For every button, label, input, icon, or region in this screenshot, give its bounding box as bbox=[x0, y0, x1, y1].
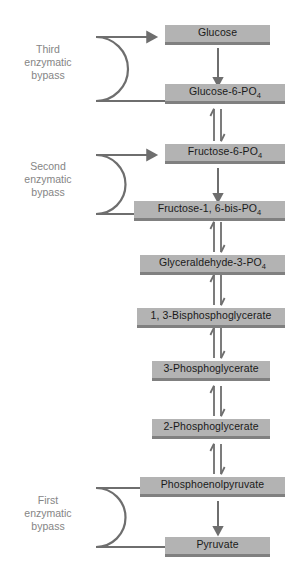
node-3-phosphoglycerate-label: 3-Phosphoglycerate bbox=[163, 363, 258, 374]
bypass-curve-third bbox=[96, 37, 168, 101]
bypass-label-third-line1: Third bbox=[8, 43, 88, 56]
bypass-label-first-line3: bypass bbox=[8, 520, 88, 533]
node-3-phosphoglycerate[interactable]: 3-Phosphoglycerate bbox=[152, 361, 270, 381]
node-1-3-bisphosphoglycerate-label: 1, 3-Bisphosphoglycerate bbox=[151, 310, 272, 321]
bypass-label-second: Second enzymatic bypass bbox=[8, 160, 88, 199]
node-glucose-6-po4-label: Glucose-6-PO4 bbox=[189, 86, 261, 97]
node-phosphoenolpyruvate-label: Phosphoenolpyruvate bbox=[161, 479, 264, 490]
node-pyruvate-label: Pyruvate bbox=[196, 539, 238, 550]
reversible-arrow-f16bp-to-g3p bbox=[210, 222, 224, 253]
bypass-label-second-line3: bypass bbox=[8, 186, 88, 199]
pathway-diagram: Glucose Glucose-6-PO4 Fructose-6-PO4 Fru… bbox=[0, 0, 294, 579]
node-glyceraldehyde-3-po4-label: Glyceraldehyde-3-PO4 bbox=[159, 257, 266, 268]
bypass-label-second-line2: enzymatic bbox=[8, 173, 88, 186]
bypass-label-third-line2: enzymatic bbox=[8, 56, 88, 69]
node-pyruvate[interactable]: Pyruvate bbox=[165, 537, 270, 557]
bypass-label-first: First enzymatic bypass bbox=[8, 494, 88, 533]
node-fructose-6-po4[interactable]: Fructose-6-PO4 bbox=[165, 144, 285, 164]
bypass-label-third: Third enzymatic bypass bbox=[8, 43, 88, 82]
node-glyceraldehyde-3-po4[interactable]: Glyceraldehyde-3-PO4 bbox=[140, 255, 285, 275]
node-fructose-6-po4-label: Fructose-6-PO4 bbox=[188, 146, 262, 157]
node-2-phosphoglycerate[interactable]: 2-Phosphoglycerate bbox=[152, 419, 270, 439]
bypass-label-third-line3: bypass bbox=[8, 69, 88, 82]
node-glucose[interactable]: Glucose bbox=[165, 25, 270, 45]
reversible-arrow-bpg13-to-pg3 bbox=[210, 328, 224, 359]
node-phosphoenolpyruvate[interactable]: Phosphoenolpyruvate bbox=[140, 477, 285, 497]
reversible-arrow-g3p-to-bpg13 bbox=[210, 275, 224, 306]
node-1-3-bisphosphoglycerate[interactable]: 1, 3-Bisphosphoglycerate bbox=[137, 308, 285, 328]
node-glucose-label: Glucose bbox=[198, 27, 237, 38]
node-fructose-1-6-bis-po4[interactable]: Fructose-1, 6-bis-PO4 bbox=[134, 201, 285, 221]
reversible-arrow-g6p-to-f6p bbox=[210, 109, 224, 142]
bypass-label-first-line2: enzymatic bbox=[8, 507, 88, 520]
node-2-phosphoglycerate-label: 2-Phosphoglycerate bbox=[163, 421, 258, 432]
reversible-arrow-pg2-to-pep bbox=[210, 444, 224, 475]
reversible-arrow-pg3-to-pg2 bbox=[210, 386, 224, 417]
bypass-label-second-line1: Second bbox=[8, 160, 88, 173]
node-glucose-6-po4[interactable]: Glucose-6-PO4 bbox=[165, 84, 285, 104]
bypass-label-first-line1: First bbox=[8, 494, 88, 507]
node-fructose-1-6-bis-po4-label: Fructose-1, 6-bis-PO4 bbox=[158, 203, 262, 214]
